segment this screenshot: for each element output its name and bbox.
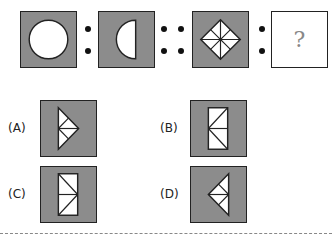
option-a-label: (A) [8,121,26,135]
figure-4-unknown: ? [271,11,328,68]
half-circle-icon [99,12,154,67]
option-d-figure[interactable] [190,166,247,223]
diamond-icon [193,12,248,67]
option-b-figure[interactable] [190,100,247,157]
question-mark: ? [272,12,327,67]
ratio-dot [161,48,167,54]
dashed-divider [0,233,332,234]
option-c-label: (C) [8,187,26,201]
triangle-left-icon [191,167,246,222]
figure-1-circle [20,11,77,68]
ratio-dot [178,26,184,32]
ratio-dot [178,48,184,54]
option-b-label: (B) [160,121,178,135]
ratio-dot [161,26,167,32]
rectangle-right-vertex-icon [41,167,96,222]
figure-3-diamond [192,11,249,68]
ratio-dot [259,48,265,54]
ratio-dot [85,48,91,54]
ratio-dot [85,26,91,32]
option-c-figure[interactable] [40,166,97,223]
rectangle-left-vertex-icon [191,101,246,156]
option-d-label: (D) [160,187,179,201]
circle-icon [21,12,76,67]
ratio-dot [259,26,265,32]
option-a-figure[interactable] [40,100,97,157]
figure-2-half-circle [98,11,155,68]
triangle-right-icon [41,101,96,156]
